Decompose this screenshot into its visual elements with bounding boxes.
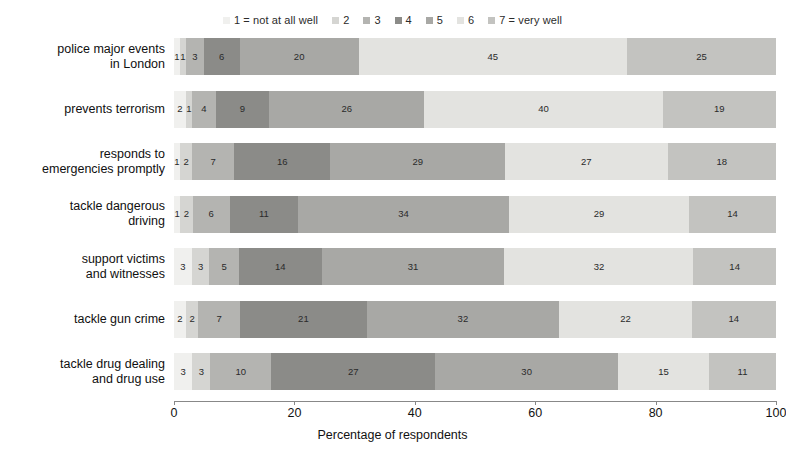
category-label-line: and drug use (0, 372, 165, 387)
category-label-line: prevents terrorism (0, 102, 165, 117)
category-label-line: tackle dangerous (0, 199, 165, 214)
category-label: tackle gun crime (0, 312, 165, 327)
category-label-line: tackle gun crime (0, 312, 165, 327)
category-label-line: responds to (0, 147, 165, 162)
x-tick-mark (294, 401, 295, 405)
category-label: responds toemergencies promptly (0, 147, 165, 177)
x-tick-mark (776, 401, 777, 405)
x-axis-title: Percentage of respondents (0, 428, 785, 442)
x-tick-mark (415, 401, 416, 405)
category-label: police major eventsin London (0, 42, 165, 72)
x-tick-label: 40 (408, 406, 422, 420)
category-label-line: and witnesses (0, 267, 165, 282)
category-label-line: driving (0, 214, 165, 229)
category-label-line: tackle drug dealing (0, 357, 165, 372)
x-tick-mark (656, 401, 657, 405)
category-label-line: in London (0, 57, 165, 72)
x-tick-label: 60 (528, 406, 542, 420)
category-label-line: emergencies promptly (0, 162, 165, 177)
category-label-line: support victims (0, 252, 165, 267)
category-label: prevents terrorism (0, 102, 165, 117)
x-tick-mark (535, 401, 536, 405)
x-tick-label: 0 (171, 406, 178, 420)
x-tick-label: 100 (766, 406, 786, 420)
x-axis-ticks: 020406080100 (174, 0, 776, 449)
x-tick-label: 20 (287, 406, 301, 420)
category-label: tackle dangerousdriving (0, 199, 165, 229)
category-label: support victimsand witnesses (0, 252, 165, 282)
x-tick-mark (174, 401, 175, 405)
category-label-line: police major events (0, 42, 165, 57)
x-tick-label: 80 (649, 406, 663, 420)
category-label: tackle drug dealingand drug use (0, 357, 165, 387)
